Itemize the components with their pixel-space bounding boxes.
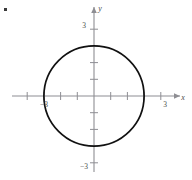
y-axis-label: y: [97, 4, 102, 13]
x-tick-label-neg3: −3: [40, 100, 48, 109]
y-axis-arrowhead: [91, 7, 97, 13]
y-tick-label-pos3: 3: [82, 21, 86, 30]
x-tick-label-pos3: 3: [163, 100, 167, 109]
figure-container: −3 3 3 −3 x y: [0, 0, 192, 180]
x-axis-arrowhead: [174, 93, 180, 99]
coordinate-plane-plot: −3 3 3 −3 x y: [0, 0, 192, 180]
y-tick-label-neg3: −3: [80, 162, 88, 171]
x-axis-label: x: [180, 93, 185, 102]
